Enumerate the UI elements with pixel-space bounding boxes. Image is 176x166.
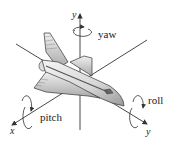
yaw-label: yaw (98, 28, 116, 40)
aircraft-axes-diagram: y x y yaw pitch roll (0, 0, 176, 166)
roll-rotation-icon (130, 96, 144, 128)
vertical-axis-label: y (71, 9, 77, 20)
space-shuttle-illustration (34, 33, 124, 106)
roll-label: roll (148, 94, 163, 106)
pitch-rotation-icon (22, 96, 32, 129)
left-axis-label: x (9, 125, 15, 136)
right-axis-label: y (145, 126, 151, 137)
pitch-label: pitch (40, 111, 62, 123)
yaw-rotation-icon (73, 27, 92, 36)
